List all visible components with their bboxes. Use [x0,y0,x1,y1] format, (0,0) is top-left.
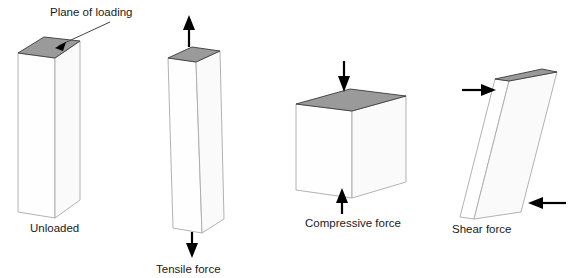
panel-compressive [296,89,406,198]
label-shear-force: Shear force [452,223,511,235]
stress-types-diagram: Plane of loading Unloaded Tensile force [0,0,572,278]
panel-unloaded [18,37,80,218]
tensile-down-arrowhead [186,243,198,258]
compressive-side-face [352,96,406,198]
shear-left-arrowhead [528,197,543,209]
diagram-canvas: Plane of loading Unloaded Tensile force [0,0,572,278]
label-unloaded: Unloaded [30,222,79,234]
unloaded-side-face [55,41,80,218]
plane-of-loading-leader [55,22,110,51]
label-tensile-force: Tensile force [156,263,221,275]
shear-left-arrow [528,197,566,209]
unloaded-front-face [18,53,55,218]
panel-shear [460,69,557,219]
panel-tensile [168,47,224,233]
compressive-front-face [296,104,352,198]
tensile-up-arrowhead [183,15,195,30]
tensile-down-arrow [186,232,198,258]
label-plane-of-loading: Plane of loading [50,6,132,18]
compressive-down-arrow [338,61,350,92]
tensile-up-arrow [183,15,195,47]
label-compressive-force: Compressive force [305,217,401,229]
